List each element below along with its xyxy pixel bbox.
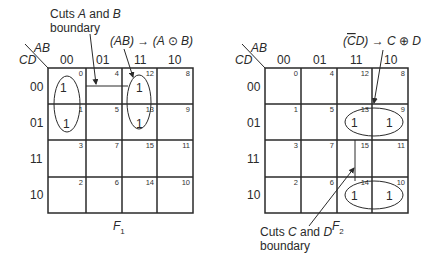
cell-value-m1: 1	[63, 117, 70, 131]
svg-text:2: 2	[79, 178, 83, 187]
annotation-cuts-ab-line2: boundary	[50, 21, 100, 35]
annotation-cuts-cd-line1: Cuts C and D	[260, 225, 332, 239]
svg-text:8: 8	[401, 69, 405, 78]
cell-value-m13: 1	[351, 116, 358, 130]
svg-text:12: 12	[146, 69, 154, 78]
col-header-00: 00	[277, 53, 291, 67]
svg-text:3: 3	[79, 141, 83, 150]
svg-text:2: 2	[294, 178, 298, 187]
col-header-11: 11	[134, 53, 147, 67]
row-header-01: 01	[30, 116, 44, 130]
svg-text:4: 4	[330, 69, 334, 78]
col-header-00: 00	[60, 53, 74, 67]
svg-text:12: 12	[361, 69, 369, 78]
svg-text:5: 5	[330, 105, 334, 114]
svg-text:6: 6	[330, 178, 334, 187]
row-header-01: 01	[247, 116, 261, 130]
col-header-10: 10	[168, 53, 182, 67]
col-var-label: AB	[250, 41, 267, 55]
col-header-10: 10	[384, 53, 398, 67]
svg-text:5: 5	[115, 105, 119, 114]
annotation-xnor: (AB) → (A ⊙ B)	[110, 34, 193, 48]
cell-indices: 0 4 12 8 1 5 13 9 3 7 15 11 2 6 14 10	[79, 69, 190, 187]
svg-text:9: 9	[186, 105, 190, 114]
svg-text:3: 3	[294, 141, 298, 150]
kmap-f1: AB CD 00 01 11 10 00 01 11 10 0 4 12 8 1…	[19, 7, 193, 236]
svg-text:15: 15	[146, 141, 154, 150]
annotation-cuts-cd-line2: boundary	[260, 239, 310, 253]
arrow-icon	[374, 50, 383, 103]
row-var-label: CD	[235, 53, 253, 67]
svg-text:14: 14	[146, 178, 154, 187]
karnaugh-maps-diagram: AB CD 00 01 11 10 00 01 11 10 0 4 12 8 1…	[0, 0, 437, 260]
svg-text:15: 15	[361, 141, 369, 150]
kmap-f2: AB CD 00 01 11 10 00 01 11 10 0 4 12 8 1…	[235, 34, 421, 253]
svg-text:4: 4	[115, 69, 119, 78]
row-header-11: 11	[247, 152, 260, 166]
row-header-10: 10	[30, 188, 44, 202]
row-header-00: 00	[30, 80, 44, 94]
cell-value-m14: 1	[351, 189, 358, 203]
svg-text:1: 1	[294, 105, 298, 114]
svg-text:6: 6	[115, 178, 119, 187]
row-var-label: CD	[19, 53, 37, 67]
cell-value-m12: 1	[136, 81, 143, 95]
svg-text:7: 7	[115, 141, 119, 150]
col-header-11: 11	[350, 53, 363, 67]
col-header-01: 01	[96, 53, 110, 67]
svg-text:10: 10	[397, 178, 405, 187]
arrow-icon	[124, 49, 133, 77]
annotation-cuts-ab-line1: Cuts A and B	[50, 7, 121, 21]
row-header-00: 00	[247, 80, 261, 94]
svg-text:0: 0	[294, 69, 298, 78]
svg-text:10: 10	[182, 178, 190, 187]
map-title-f1: F1	[113, 219, 125, 236]
col-header-01: 01	[313, 53, 327, 67]
annotation-xor: (CD) → C ⊕ D	[343, 34, 421, 48]
svg-text:11: 11	[397, 141, 405, 150]
svg-text:8: 8	[186, 69, 190, 78]
svg-text:7: 7	[330, 141, 334, 150]
row-header-11: 11	[30, 152, 43, 166]
svg-text:0: 0	[79, 69, 83, 78]
cell-value-m10: 1	[386, 189, 393, 203]
map-title-f2: F2	[332, 219, 344, 236]
cell-value-m0: 1	[60, 81, 67, 95]
svg-text:11: 11	[182, 141, 190, 150]
row-header-10: 10	[247, 188, 261, 202]
cell-value-m9: 1	[386, 116, 393, 130]
svg-text:9: 9	[401, 105, 405, 114]
